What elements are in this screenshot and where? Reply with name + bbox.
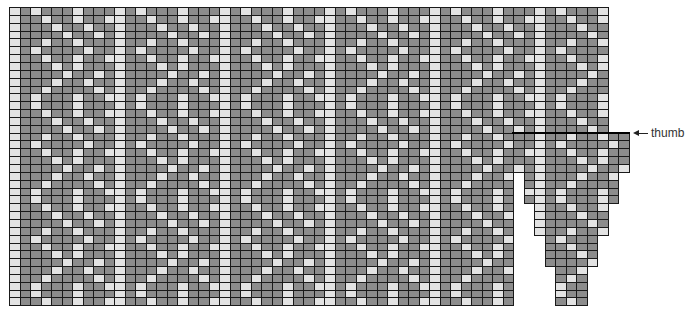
knitting-chart [0,0,692,313]
chart-cell [597,227,609,236]
chart-cell [608,195,619,204]
chart-cell [503,297,514,306]
chart-cell [618,164,630,173]
arrow-shaft [638,133,648,134]
chart-cell [587,258,598,267]
chart-cell [576,297,588,306]
thumb-marker-line [512,132,630,134]
thumb-label: thumb [651,126,684,140]
